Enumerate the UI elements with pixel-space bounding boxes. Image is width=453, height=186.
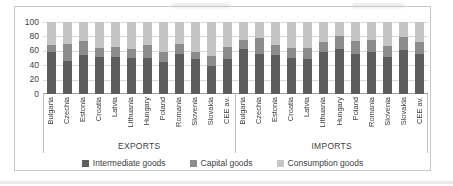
segment-capital-goods — [207, 56, 216, 66]
category-label: Bulgaria — [238, 97, 248, 125]
segment-intermediate-goods — [191, 59, 200, 94]
y-tick-label: 40 — [15, 61, 39, 70]
bar-exports-slovenia — [191, 22, 200, 94]
segment-capital-goods — [415, 42, 424, 54]
category-label: Estonia — [270, 97, 280, 122]
segment-consumption-goods — [95, 22, 104, 48]
category-label: Poland — [351, 97, 361, 120]
category-slot: Hungary — [335, 95, 345, 143]
legend: Intermediate goods Capital goods Consump… — [15, 156, 430, 170]
category-label: Romania — [367, 97, 377, 127]
category-slot: CEE av. — [222, 95, 232, 143]
y-tick-label: 0 — [15, 90, 39, 99]
segment-capital-goods — [159, 52, 168, 62]
category-label: Slovakia — [399, 97, 409, 125]
bar-exports-hungary — [143, 22, 152, 94]
segment-consumption-goods — [303, 22, 312, 48]
segment-capital-goods — [399, 37, 408, 50]
segment-consumption-goods — [383, 22, 392, 46]
bar-imports-bulgaria — [239, 22, 248, 94]
category-label-group-exports: BulgariaCzechiaEstoniaCroatiaLatviaLithu… — [43, 95, 235, 143]
segment-consumption-goods — [175, 22, 184, 44]
category-label: CEE av. — [222, 97, 232, 124]
segment-capital-goods — [175, 44, 184, 53]
bar-exports-estonia — [79, 22, 88, 94]
segment-intermediate-goods — [383, 57, 392, 94]
segment-capital-goods — [271, 45, 280, 55]
segment-consumption-goods — [271, 22, 280, 45]
category-slot: Estonia — [78, 95, 88, 143]
segment-consumption-goods — [207, 22, 216, 56]
segment-intermediate-goods — [351, 54, 360, 94]
segment-intermediate-goods — [287, 58, 296, 94]
segment-consumption-goods — [351, 22, 360, 41]
scan-smudge-artifact — [352, 3, 404, 8]
y-tick-label: 100 — [15, 18, 39, 27]
bar-exports-czechia — [63, 22, 72, 94]
segment-intermediate-goods — [239, 49, 248, 94]
segment-intermediate-goods — [367, 52, 376, 94]
category-slot: CEE av. — [415, 95, 425, 143]
segment-capital-goods — [319, 42, 328, 52]
bar-imports-poland — [351, 22, 360, 94]
bar-exports-cee-av- — [223, 22, 232, 94]
category-slot: Romania — [367, 95, 377, 143]
segment-capital-goods — [79, 41, 88, 55]
bar-imports-hungary — [335, 22, 344, 94]
category-label: Latvia — [110, 97, 120, 117]
bar-exports-poland — [159, 22, 168, 94]
category-label: Czechia — [62, 97, 72, 124]
category-slot: Slovenia — [190, 95, 200, 143]
segment-consumption-goods — [111, 22, 120, 47]
bar-imports-estonia — [271, 22, 280, 94]
category-label: Hungary — [335, 97, 345, 125]
segment-intermediate-goods — [223, 59, 232, 94]
category-label: Estonia — [78, 97, 88, 122]
legend-item-capital: Capital goods — [190, 158, 253, 168]
segment-intermediate-goods — [335, 49, 344, 94]
segment-consumption-goods — [335, 22, 344, 36]
segment-consumption-goods — [79, 22, 88, 41]
category-slot: Bulgaria — [46, 95, 56, 143]
bar-exports-lithuania — [127, 22, 136, 94]
group-label-imports: IMPORTS — [236, 141, 429, 153]
category-slot: Latvia — [110, 95, 120, 143]
legend-item-consumption: Consumption goods — [277, 158, 364, 168]
bar-imports-slovenia — [383, 22, 392, 94]
y-axis: 020406080100 — [15, 7, 41, 97]
legend-label-consumption: Consumption goods — [288, 158, 364, 168]
category-label: Slovenia — [190, 97, 200, 126]
chart-frame: 020406080100 BulgariaCzechiaEstoniaCroat… — [14, 6, 431, 171]
segment-consumption-goods — [287, 22, 296, 48]
segment-capital-goods — [287, 48, 296, 58]
segment-intermediate-goods — [271, 55, 280, 94]
category-label: Romania — [174, 97, 184, 127]
bar-imports-latvia — [303, 22, 312, 94]
segment-intermediate-goods — [127, 58, 136, 94]
bar-exports-romania — [175, 22, 184, 94]
category-label: Lithuania — [318, 97, 328, 127]
category-label-group-imports: BulgariaCzechiaEstoniaCroatiaLatviaLithu… — [235, 95, 428, 143]
bar-imports-cee-av- — [415, 22, 424, 94]
legend-label-capital: Capital goods — [201, 158, 253, 168]
category-label: Slovakia — [206, 97, 216, 125]
segment-intermediate-goods — [319, 52, 328, 94]
plot-area — [43, 22, 428, 94]
legend-item-intermediate: Intermediate goods — [82, 158, 166, 168]
segment-consumption-goods — [319, 22, 328, 42]
group-labels-row: EXPORTS IMPORTS — [43, 141, 428, 153]
segment-intermediate-goods — [415, 54, 424, 94]
segment-capital-goods — [47, 45, 56, 52]
category-slot: Poland — [351, 95, 361, 143]
segment-intermediate-goods — [207, 66, 216, 94]
category-slot: Latvia — [302, 95, 312, 143]
segment-consumption-goods — [191, 22, 200, 52]
category-slot: Bulgaria — [238, 95, 248, 143]
category-label: Poland — [158, 97, 168, 120]
category-slot: Hungary — [142, 95, 152, 143]
category-label: Bulgaria — [46, 97, 56, 125]
segment-capital-goods — [191, 52, 200, 60]
bar-group-exports — [43, 22, 235, 94]
segment-capital-goods — [351, 41, 360, 53]
segment-capital-goods — [335, 36, 344, 49]
